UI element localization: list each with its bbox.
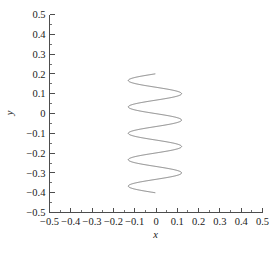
y-tick-label: 0.4 xyxy=(32,29,46,40)
y-tick-label: 0.2 xyxy=(32,69,45,80)
x-tick-label: 0.2 xyxy=(192,216,205,227)
x-tick-label: 0.4 xyxy=(235,216,249,227)
y-tick-label: −0.3 xyxy=(26,168,45,179)
y-tick-label: 0.1 xyxy=(32,88,45,99)
y-tick-label: −0.1 xyxy=(26,128,45,139)
figure-container: −0.5−0.4−0.3−0.2−0.100.10.20.30.40.5 −0.… xyxy=(0,0,278,253)
x-axis-tick-labels: −0.5−0.4−0.3−0.2−0.100.10.20.30.40.5 xyxy=(40,216,269,227)
x-tick-label: −0.4 xyxy=(61,216,81,227)
y-tick-label: −0.5 xyxy=(26,207,45,218)
x-tick-label: 0 xyxy=(153,216,158,227)
x-tick-label: 0.1 xyxy=(171,216,184,227)
x-tick-label: −0.2 xyxy=(104,216,123,227)
y-tick-label: 0.3 xyxy=(32,49,45,60)
y-tick-label: −0.2 xyxy=(26,148,45,159)
x-tick-label: 0.5 xyxy=(256,216,269,227)
y-axis-title: y xyxy=(4,110,15,116)
y-tick-label: −0.4 xyxy=(26,187,46,198)
x-tick-label: −0.3 xyxy=(83,216,102,227)
spiral-trajectory-chart: −0.5−0.4−0.3−0.2−0.100.10.20.30.40.5 −0.… xyxy=(0,0,278,253)
x-axis-title: x xyxy=(152,229,158,240)
x-tick-label: 0.3 xyxy=(213,216,226,227)
x-tick-label: −0.1 xyxy=(125,216,144,227)
y-tick-label: 0 xyxy=(40,108,45,119)
y-tick-label: 0.5 xyxy=(32,9,45,20)
